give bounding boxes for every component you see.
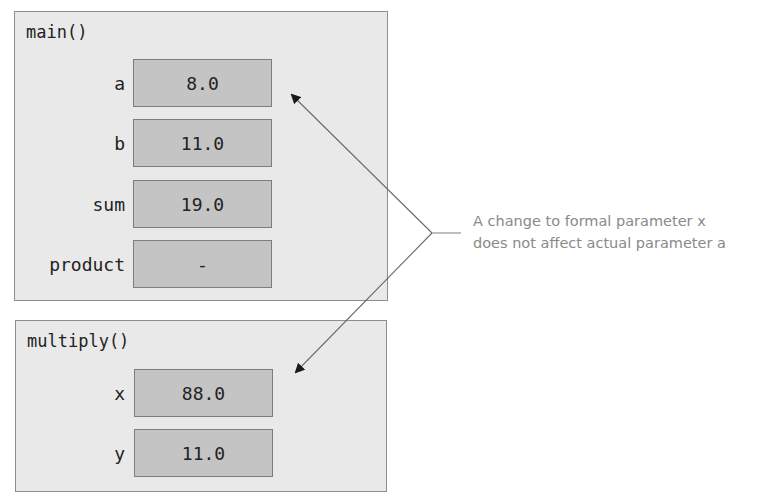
arrow-to-x xyxy=(296,233,432,372)
annotation-line-2: does not affect actual parameter a xyxy=(473,235,726,251)
callout-arrows xyxy=(0,0,784,504)
annotation-line-1: A change to formal parameter x xyxy=(473,213,706,229)
arrow-to-a xyxy=(292,95,432,233)
